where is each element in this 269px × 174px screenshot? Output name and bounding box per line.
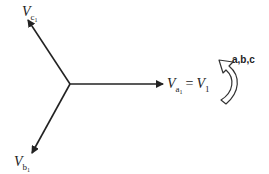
phase-sequence-label: a,b,c [232,55,255,65]
label-va1-rhs-main: V [196,76,205,91]
phasor-diagram: Vc1 Va1=V1 Vb1 a,b,c [0,0,269,174]
label-va1-main: V [167,76,176,91]
rotation-direction-icon [219,60,237,104]
label-vb1-main: V [14,154,23,169]
label-vc1-sub2: 1 [35,17,38,23]
label-vb1-sub2: 1 [27,167,30,173]
label-vc1: Vc1 [22,5,38,23]
label-va1-sub2: 1 [180,89,183,95]
label-vc1-main: V [22,4,31,19]
phasor-vc1-arrow [28,20,70,84]
phasor-vb1-arrow [32,84,70,153]
phasor-diagram-svg [0,0,269,174]
label-va1-rhs-sub: 1 [205,84,210,94]
label-va1: Va1=V1 [167,77,210,95]
label-vb1: Vb1 [14,155,30,173]
label-va1-equals: = [186,76,194,91]
